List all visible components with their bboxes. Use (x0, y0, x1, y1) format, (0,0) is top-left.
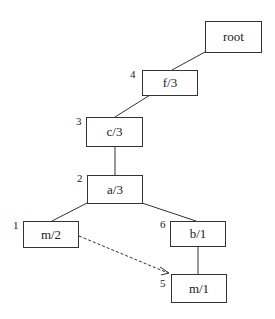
edge-f-c (115, 95, 150, 117)
node-label: f/3 (163, 75, 177, 91)
edge-a-b (142, 203, 196, 221)
node-m1: m/1 (171, 274, 227, 303)
order-number: 5 (160, 278, 166, 289)
node-label: m/1 (189, 281, 209, 297)
node-f: f/3 (142, 70, 198, 96)
edge-m2-m1-dashed (79, 236, 168, 273)
node-label: root (223, 29, 244, 45)
edge-root-f (172, 52, 205, 70)
order-number: 3 (76, 116, 82, 127)
node-label: b/1 (190, 226, 207, 242)
node-b: b/1 (170, 221, 226, 247)
node-root: root (205, 21, 262, 53)
order-number: 6 (160, 219, 166, 230)
order-number: 2 (77, 173, 83, 184)
order-number: 4 (130, 69, 136, 80)
node-c: c/3 (86, 117, 143, 147)
node-a: a/3 (87, 175, 143, 204)
order-number: 1 (13, 220, 19, 231)
node-label: a/3 (107, 182, 123, 198)
node-m2: m/2 (23, 221, 79, 248)
node-label: c/3 (107, 124, 123, 140)
arrowhead-icon (160, 267, 169, 275)
node-label: m/2 (41, 227, 61, 243)
edge-a-m2 (52, 203, 87, 221)
